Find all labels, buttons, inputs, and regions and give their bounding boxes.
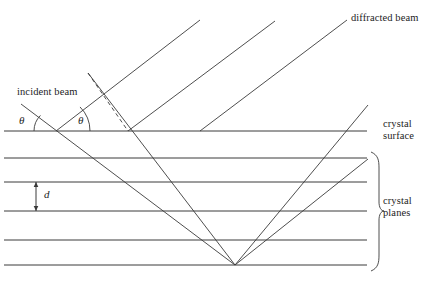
incident-beam-label: incident beam bbox=[17, 86, 78, 98]
crystal-planes-label-line2: planes bbox=[383, 207, 410, 218]
diffracted-ray bbox=[200, 20, 347, 131]
diffracted-ray bbox=[235, 105, 368, 265]
diffracted-ray bbox=[128, 21, 275, 131]
diffracted-beam-label: diffracted beam bbox=[351, 12, 418, 24]
incident-beam-rays bbox=[21, 73, 235, 265]
theta-angle-label-left: θ bbox=[19, 115, 25, 127]
diffracted-beam-rays bbox=[56, 20, 368, 265]
incident-ray bbox=[21, 104, 235, 265]
crystal-planes-label: crystal planes bbox=[383, 195, 412, 218]
d-arrow-head-top bbox=[34, 182, 39, 187]
incident-ray bbox=[88, 73, 235, 265]
theta-angle-label-right: θ bbox=[78, 115, 84, 127]
interplanar-spacing-arrow bbox=[34, 182, 39, 211]
diagram-canvas: incident beam diffracted beam crystal su… bbox=[0, 0, 441, 282]
crystal-surface-label: crystal surface bbox=[383, 118, 414, 141]
crystal-surface-label-line1: crystal bbox=[383, 118, 412, 129]
crystal-planes-label-line1: crystal bbox=[383, 195, 412, 206]
crystal-plane-lines bbox=[4, 131, 367, 265]
bragg-diffraction-figure bbox=[0, 0, 441, 282]
d-arrow-head-bottom bbox=[34, 206, 39, 211]
diffracted-ray bbox=[235, 159, 368, 265]
crystal-surface-label-line2: surface bbox=[383, 130, 414, 141]
spacing-d-label: d bbox=[44, 189, 50, 201]
